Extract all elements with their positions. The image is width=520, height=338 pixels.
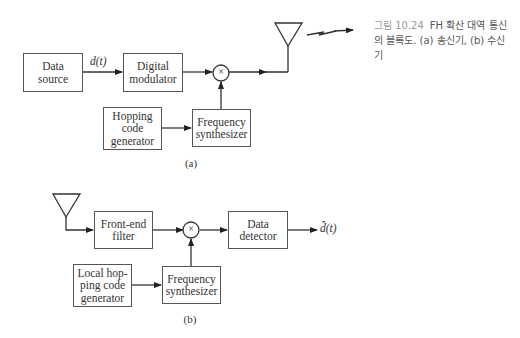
subfigure-label-b: (b)	[184, 313, 197, 325]
block-data-source: Data source	[23, 53, 83, 92]
radio-wave-icon	[307, 31, 336, 35]
signal-label-d-t: d(t)	[90, 55, 107, 67]
block-frequency-synthesizer-a: Frequency synthesizer	[192, 109, 251, 147]
multiplier-symbol-b: ×	[188, 223, 194, 234]
figure-caption: 그림 10.24FH 확산 대역 통신의 블록도. (a) 송신기, (b) 수…	[374, 18, 514, 63]
block-hopping-code-generator: Hopping code generator	[103, 107, 162, 150]
block-local-hopping-code-generator: Local hop- ping code generator	[73, 264, 132, 307]
block-front-end-filter: Front-end filter	[94, 211, 153, 249]
block-frequency-synthesizer-b: Frequency synthesizer	[162, 266, 221, 304]
subfigure-label-a: (a)	[185, 157, 197, 169]
block-data-detector: Data detector	[228, 211, 288, 249]
antenna-icon-tx	[275, 23, 302, 46]
fh-spread-spectrum-diagram: × × Data source d(t) Digital modulator H…	[0, 0, 520, 338]
arrow-antenna-to-filter	[66, 217, 93, 230]
antenna-icon-rx	[53, 194, 80, 217]
figure-number: 그림 10.24	[374, 20, 424, 31]
output-label-d-hat-t: d̂(t)	[320, 222, 337, 234]
multiplier-symbol-a: ×	[218, 66, 224, 77]
block-digital-modulator: Digital modulator	[123, 53, 183, 92]
